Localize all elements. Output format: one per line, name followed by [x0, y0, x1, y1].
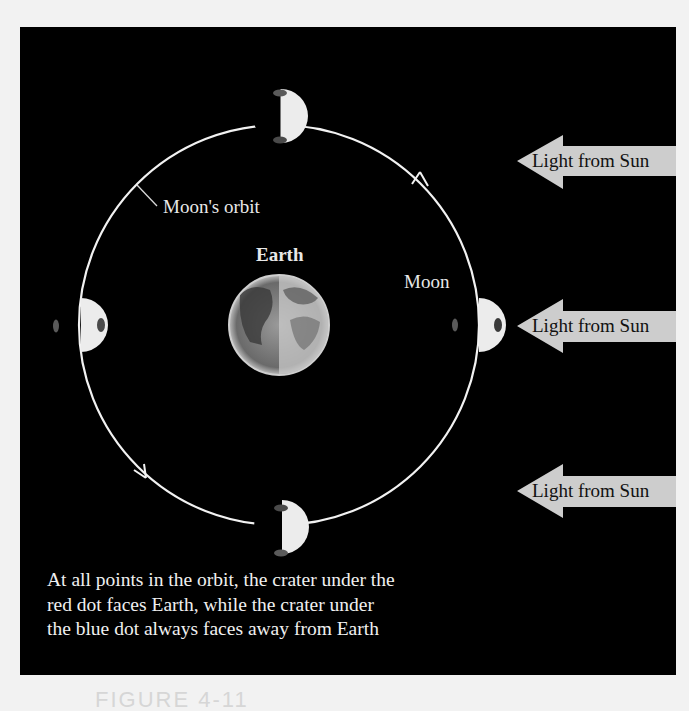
- caption-line: the blue dot always faces away from Eart…: [47, 617, 395, 642]
- diagram-caption: At all points in the orbit, the crater u…: [47, 568, 395, 642]
- red-dot: [273, 137, 287, 144]
- moon-right: [452, 298, 506, 352]
- blue-dot: [494, 318, 502, 332]
- moon-label: Moon: [404, 271, 449, 293]
- sun-arrow-label-1: Light from Sun: [532, 150, 649, 172]
- caption-line: At all points in the orbit, the crater u…: [47, 568, 395, 593]
- orbit-leader-line: [137, 185, 157, 206]
- blue-dot: [53, 320, 59, 333]
- earth-label: Earth: [256, 244, 304, 266]
- blue-dot: [273, 90, 287, 97]
- sun-arrow-label-2: Light from Sun: [532, 315, 649, 337]
- orbit-label: Moon's orbit: [163, 196, 260, 218]
- moon-bottom: [254, 500, 309, 557]
- earth-globe: [229, 270, 334, 380]
- caption-line: red dot faces Earth, while the crater un…: [47, 593, 395, 618]
- moon-top: [253, 89, 308, 144]
- figure-number: FIGURE 4-11: [95, 687, 249, 711]
- red-dot: [97, 318, 105, 332]
- blue-dot: [274, 550, 288, 557]
- sun-arrow-label-3: Light from Sun: [532, 480, 649, 502]
- red-dot: [274, 505, 288, 512]
- red-dot: [452, 319, 458, 332]
